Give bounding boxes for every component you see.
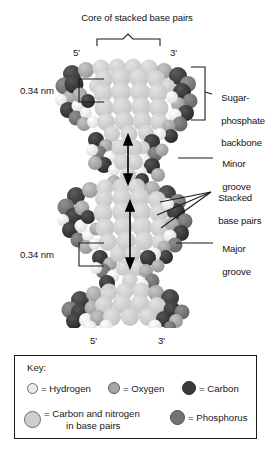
key-entry-hydrogen: = Hydrogen [27, 383, 91, 394]
sp-line-2: phosphate [221, 115, 265, 126]
cn-line-2: in base pairs [44, 420, 120, 432]
core-of-stacked-base-pairs-label: Core of stacked base pairs [56, 12, 218, 23]
five-prime-bottom-label: 5' [90, 335, 97, 346]
key-box: Key: = Hydrogen = Oxygen = Carbon = Carb… [14, 355, 257, 439]
rise-upper-label: 0.34 nm [20, 85, 54, 96]
minor-line-1: Minor [222, 158, 246, 169]
oxygen-label: = Oxygen [123, 383, 164, 394]
key-entry-phosphorus: = Phosphorus [170, 410, 247, 425]
hydrogen-swatch [27, 383, 38, 394]
key-entry-carbon: = Carbon [182, 381, 239, 395]
key-entry-carbon-nitrogen: = Carbon and nitrogenin base pairs [24, 408, 140, 431]
key-title: Key: [27, 362, 46, 373]
carbon-swatch [182, 381, 196, 395]
five-prime-top-label: 5' [73, 47, 80, 58]
sp-line-1: Sugar- [221, 92, 249, 103]
cn-line-1: = Carbon and nitrogen [44, 408, 140, 419]
carbon-nitrogen-swatch [24, 411, 41, 428]
phosphorus-swatch [170, 410, 185, 425]
oxygen-swatch [108, 382, 120, 394]
sugar-phosphate-backbone-label: Sugar- phosphate backbone [216, 81, 274, 148]
phosphorus-label: = Phosphorus [188, 412, 247, 423]
stacked-base-pairs-label: Stacked base pairs [213, 181, 274, 226]
core-bracket [97, 34, 160, 46]
three-prime-bottom-label: 3' [158, 335, 165, 346]
key-entry-oxygen: = Oxygen [108, 382, 164, 394]
three-prime-top-label: 3' [170, 47, 177, 58]
rise-lower-label: 0.34 nm [20, 249, 54, 260]
major-line-2: groove [222, 266, 251, 277]
sugar-phosphate-bracket [191, 67, 212, 120]
major-groove-label: Major groove [217, 232, 274, 277]
major-line-1: Major [222, 243, 246, 254]
sbp-line-2: base pairs [218, 215, 261, 226]
carbon-nitrogen-label: = Carbon and nitrogenin base pairs [44, 408, 140, 431]
sbp-line-1: Stacked [218, 192, 252, 203]
carbon-label: = Carbon [199, 383, 239, 394]
hydrogen-label: = Hydrogen [41, 383, 91, 394]
dna-space-filling-model [55, 59, 198, 334]
